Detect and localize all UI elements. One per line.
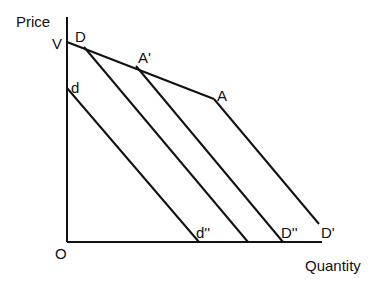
label-d-double-prime: d'' <box>196 224 210 241</box>
demand-line-d <box>67 88 199 242</box>
demand-line-D <box>84 47 248 242</box>
y-axis-label: Price <box>16 13 50 30</box>
label-d: d <box>71 79 79 96</box>
label-A: A <box>217 87 227 104</box>
origin-label: O <box>55 245 67 262</box>
demand-diagram: Price Quantity O V D A' A d d'' D'' D' <box>0 0 370 285</box>
label-V: V <box>52 35 62 52</box>
label-D-double-prime: D'' <box>281 224 298 241</box>
label-D: D <box>75 28 86 45</box>
label-A-prime: A' <box>138 49 151 66</box>
x-axis-label: Quantity <box>305 257 361 274</box>
demand-line-A <box>214 99 319 224</box>
label-D-prime: D' <box>321 224 335 241</box>
